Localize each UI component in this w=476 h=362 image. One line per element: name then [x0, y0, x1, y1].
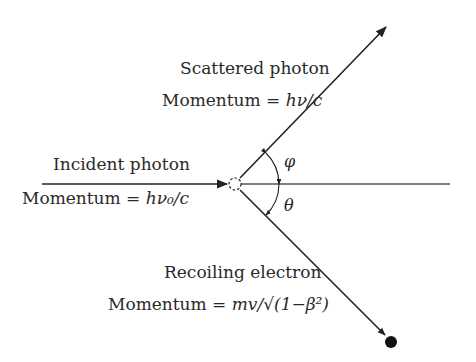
scattered-momentum-expr: hν/c: [286, 90, 323, 110]
phi-angle-arc: [266, 153, 279, 184]
theta-symbol: θ: [284, 196, 294, 215]
compton-diagram: Scattered photon Momentum = hν/c Inciden…: [0, 0, 476, 362]
recoil-electron-dot: [385, 336, 397, 348]
scattered-photon-label: Scattered photon: [180, 60, 330, 77]
phi-symbol: φ: [284, 152, 295, 171]
momentum-prefix: Momentum =: [108, 294, 232, 314]
incident-photon-label: Incident photon: [53, 156, 190, 173]
scattering-electron-initial: [229, 178, 241, 190]
momentum-prefix: Momentum =: [22, 188, 146, 208]
momentum-prefix: Momentum =: [162, 90, 286, 110]
electron-momentum-expr: mv/√(1−β²): [232, 294, 329, 314]
recoil-electron-label: Recoiling electron: [164, 264, 321, 281]
scattered-photon-momentum: Momentum = hν/c: [162, 92, 322, 109]
incident-momentum-expr: hν₀/c: [146, 188, 189, 208]
incident-photon-momentum: Momentum = hν₀/c: [22, 190, 189, 207]
recoil-electron-momentum: Momentum = mv/√(1−β²): [108, 296, 329, 313]
theta-angle-arc: [266, 184, 279, 215]
